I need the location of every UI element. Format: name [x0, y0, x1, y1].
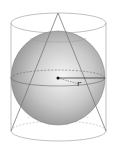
cylinder-bottom-front-arc — [11, 131, 106, 141]
cylinder-top-ellipse — [11, 13, 106, 33]
center-point — [57, 77, 60, 80]
sphere-cylinder-cone-diagram: r — [0, 0, 115, 156]
